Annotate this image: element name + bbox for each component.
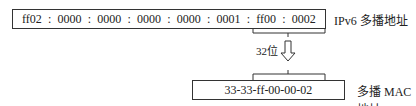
- bits-label: 32位: [256, 42, 278, 58]
- mac-address-box: 33-33-ff-00-00-02: [192, 80, 345, 100]
- multicast-mac-label: 多播 MAC 地址: [357, 82, 416, 106]
- down-arrow-icon: [281, 41, 295, 61]
- top-bracket: [253, 29, 325, 33]
- mac-value: 33-33-ff-00-00-02: [225, 83, 313, 98]
